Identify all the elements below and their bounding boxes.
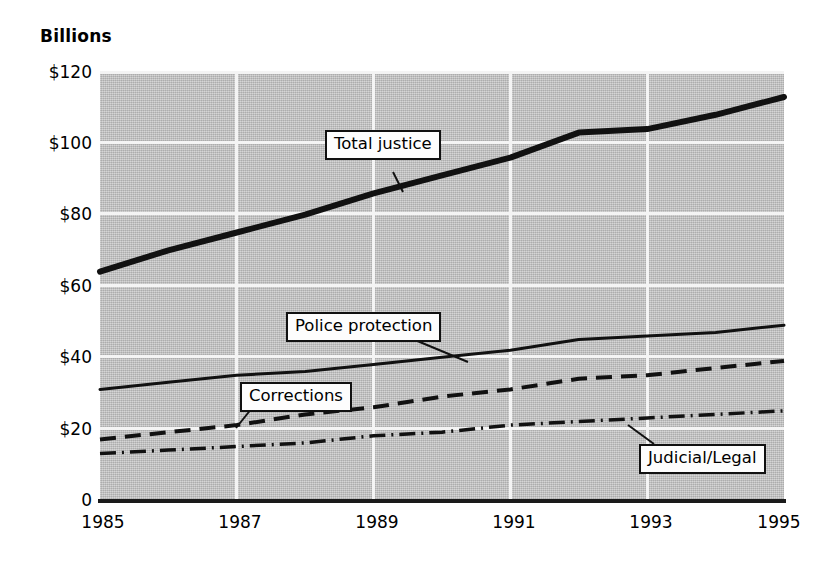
series-line-police-protection bbox=[100, 325, 784, 389]
series-label-judicial-legal: Judicial/Legal bbox=[639, 444, 766, 474]
leader-line-judicial-legal bbox=[628, 425, 654, 444]
series-label-total-justice: Total justice bbox=[325, 130, 441, 160]
series-overlay bbox=[0, 0, 830, 571]
series-label-police-protection: Police protection bbox=[286, 312, 441, 342]
series-line-total-justice bbox=[100, 97, 784, 272]
series-label-corrections: Corrections bbox=[240, 382, 352, 412]
line-chart: Billions $120 $100 $80 $60 $40 $20 0 198… bbox=[0, 0, 830, 571]
series-line-corrections bbox=[100, 361, 784, 440]
